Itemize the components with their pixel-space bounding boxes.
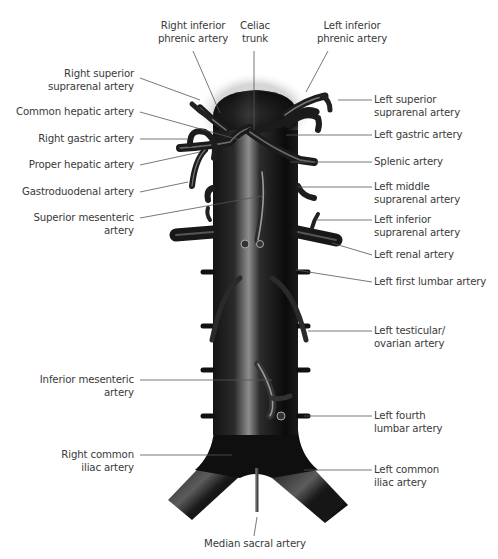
label-left-first-lumbar-artery: Left first lumbar artery [374, 276, 486, 289]
label-left-testicular-ovarian-artery: Left testicular/ ovarian artery [374, 325, 445, 350]
label-left-gastric-artery: Left gastric artery [374, 129, 462, 142]
label-left-renal-artery: Left renal artery [374, 249, 454, 262]
label-right-common-iliac-artery: Right common iliac artery [61, 449, 134, 474]
label-superior-mesenteric-artery: Superior mesenteric artery [33, 212, 134, 237]
label-common-hepatic-artery: Common hepatic artery [16, 106, 134, 119]
label-left-common-iliac-artery: Left common iliac artery [374, 464, 439, 489]
label-left-superior-suprarenal-artery: Left superior suprarenal artery [374, 94, 460, 119]
label-left-inferior-suprarenal-artery: Left inferior suprarenal artery [374, 214, 460, 239]
label-right-gastric-artery: Right gastric artery [38, 133, 134, 146]
aorta-diagram: Right inferior phrenic artery Celiac tru… [0, 0, 498, 559]
label-left-middle-suprarenal-artery: Left middle suprarenal artery [374, 181, 460, 206]
label-gastroduodenal-artery: Gastroduodenal artery [22, 186, 134, 199]
label-splenic-artery: Splenic artery [374, 156, 443, 169]
label-left-inferior-phrenic-artery: Left inferior phrenic artery [300, 20, 404, 45]
label-median-sacral-artery: Median sacral artery [190, 538, 320, 551]
label-proper-hepatic-artery: Proper hepatic artery [29, 159, 134, 172]
label-left-fourth-lumbar-artery: Left fourth lumbar artery [374, 410, 442, 435]
label-celiac-trunk: Celiac trunk [230, 20, 280, 45]
label-right-superior-suprarenal-artery: Right superior suprarenal artery [48, 68, 134, 93]
label-inferior-mesenteric-artery: Inferior mesenteric artery [40, 374, 134, 399]
